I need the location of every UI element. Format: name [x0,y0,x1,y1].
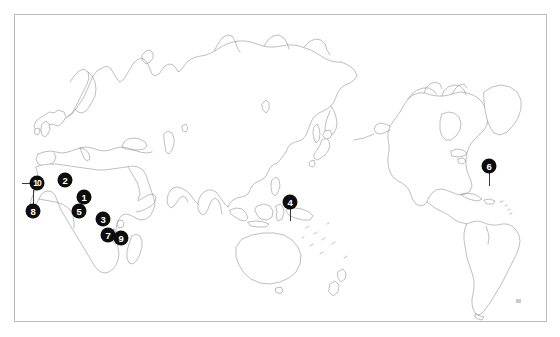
coast-sakhalin [313,124,320,143]
coast-lesser-antilles [500,201,512,214]
leader-line-marker-6 [489,173,490,186]
coast-lake-baikal [262,100,269,113]
coastline-layer [14,14,547,322]
coast-caspian-sea [164,131,174,154]
coast-india [198,190,228,215]
coast-italy [80,148,90,161]
coast-greenland [484,85,521,135]
coast-new-zealand-north [338,269,346,282]
coast-ireland [35,128,40,135]
coast-new-zealand-south [329,281,339,296]
coast-far-east-russia [286,62,357,152]
coast-philippines [271,177,280,196]
map-marker-3[interactable]: 3 [96,212,111,227]
coast-pacific-islands [302,223,347,258]
coast-japan-kyushu [309,160,315,167]
map-marker-9[interactable]: 9 [114,231,129,246]
coast-aral-sea [182,124,188,132]
coast-alaska [374,123,390,134]
coastline-svg [14,14,547,322]
coast-hispaniola [484,199,495,204]
coast-northern-eurasia [66,41,341,118]
coast-north-america [388,92,488,206]
world-map-figure: 1 2 3 4 5 6 7 8 9 10 [0,0,560,337]
coast-central-america [427,202,467,224]
coast-australia [236,233,301,284]
coast-south-america [464,221,520,315]
coast-arabia [167,187,198,208]
coast-baltic [75,72,96,113]
map-marker-8[interactable]: 8 [26,204,41,219]
leader-line-marker-4 [290,209,291,221]
coast-sumatra [230,208,248,221]
coast-madagascar [127,234,142,264]
coast-siberia-north [214,35,330,55]
map-marker-1[interactable]: 1 [77,190,92,205]
coast-sulawesi [276,204,284,221]
coast-novaya-zemlya [142,50,153,64]
coast-lake-victoria [117,220,124,228]
map-marker-4[interactable]: 4 [283,195,298,210]
map-marker-5[interactable]: 5 [72,204,87,219]
map-marker-6[interactable]: 6 [482,159,497,174]
coast-mediterranean-north [38,147,152,154]
coast-japan-hokkaido [323,130,332,139]
coast-tasmania [276,287,283,294]
coast-java [248,221,269,227]
coast-borneo [255,204,273,220]
coast-black-sea [122,138,147,150]
coast-great-britain [41,121,50,137]
coast-tierra-del-fuego [475,314,484,320]
map-speck-southern-ocean [516,299,521,303]
map-marker-10[interactable]: 10 [30,176,45,191]
map-marker-2[interactable]: 2 [58,173,73,188]
coast-aleutians [354,134,374,140]
